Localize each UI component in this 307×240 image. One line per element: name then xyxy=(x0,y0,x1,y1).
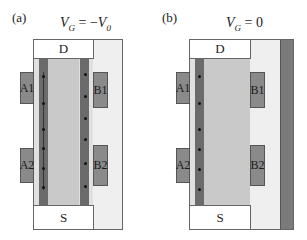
electron-dot xyxy=(84,73,87,76)
panel-a-left-current-line xyxy=(43,72,44,190)
panel-b-left-edge-channel xyxy=(195,58,204,205)
panel-a-condition: VG = −V0 xyxy=(60,15,111,33)
electron-dot xyxy=(42,128,45,131)
panel-a-gate-a2: A2 xyxy=(20,148,34,183)
panel-b-gate-a1: A1 xyxy=(176,72,190,104)
panel-b-source-contact: S xyxy=(189,205,251,230)
electron-dot xyxy=(42,75,45,78)
panel-b-channel-body xyxy=(204,58,250,205)
electron-dot xyxy=(84,138,87,141)
panel-a-drain-contact: D xyxy=(33,39,94,59)
panel-a-gate-b1: B1 xyxy=(93,72,108,108)
electron-dot xyxy=(84,162,87,165)
panel-a-gate-a1: A1 xyxy=(20,72,34,104)
panel-a-gate-b2: B2 xyxy=(93,145,108,186)
electron-dot xyxy=(42,186,45,189)
panel-b-gate-b2: B2 xyxy=(250,145,265,186)
panel-a-source-contact: S xyxy=(33,205,94,230)
panel-b-dark-strip xyxy=(280,40,293,229)
electron-dot xyxy=(198,75,201,78)
panel-a-label: (a) xyxy=(12,10,26,26)
panel-b-drain-contact: D xyxy=(189,39,251,59)
electron-dot xyxy=(198,128,201,131)
electron-dot xyxy=(42,102,45,105)
electron-dot xyxy=(42,167,45,170)
panel-a-right-edge-channel xyxy=(80,58,89,205)
panel-b-gate-a2: A2 xyxy=(176,148,190,183)
electron-dot xyxy=(84,185,87,188)
panel-b-label: (b) xyxy=(162,10,177,26)
electron-dot xyxy=(42,147,45,150)
panel-b-gate-b1: B1 xyxy=(250,72,265,108)
panel-b-condition: VG = 0 xyxy=(226,15,263,33)
electron-dot xyxy=(198,148,201,151)
electron-dot xyxy=(198,102,201,105)
electron-dot xyxy=(198,188,201,191)
electron-dot xyxy=(84,117,87,120)
electron-dot xyxy=(84,95,87,98)
panel-a-channel-body xyxy=(48,58,79,205)
electron-dot xyxy=(198,168,201,171)
